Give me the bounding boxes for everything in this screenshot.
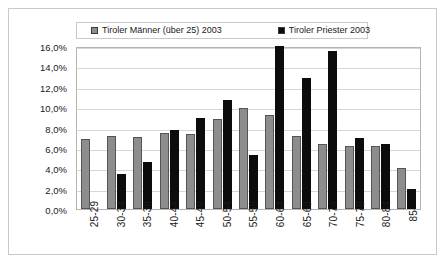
x-axis-slot: 45-49 <box>182 212 209 265</box>
legend-label-tiroler-priester: Tiroler Priester 2003 <box>289 26 370 35</box>
bar-80-84-series2 <box>381 144 390 209</box>
bar-35-39-series1 <box>133 137 142 209</box>
bar-group <box>341 48 367 209</box>
bar-group <box>367 48 393 209</box>
y-axis-tick-label: 4,0% <box>45 164 67 175</box>
x-axis-slot: 70-74 <box>315 212 342 265</box>
bar-25-29-series1 <box>81 139 90 209</box>
black-square-icon <box>278 27 285 34</box>
gray-square-icon <box>91 27 98 34</box>
bar-50-54-series1 <box>213 119 222 209</box>
bar-group <box>103 48 129 209</box>
x-axis-tick-label: 60-64 <box>275 201 286 228</box>
x-axis-tick-label: 45-49 <box>195 201 206 228</box>
bar-45-49-series1 <box>186 134 195 209</box>
chart-legend: Tiroler Männer (über 25) 2003 Tiroler Pr… <box>76 22 368 39</box>
x-axis-tick-label: 40-44 <box>169 201 180 228</box>
bar-group <box>77 48 103 209</box>
bar-group <box>209 48 235 209</box>
bar-group <box>288 48 314 209</box>
legend-label-tiroler-maenner: Tiroler Männer (über 25) 2003 <box>102 26 222 35</box>
bar-60-64-series1 <box>265 115 274 209</box>
bar-75-79-series2 <box>355 138 364 209</box>
y-axis-tick-label: 10,0% <box>40 103 67 114</box>
x-axis-tick-label: 35-39 <box>142 201 153 228</box>
y-axis-tick-label: 2,0% <box>45 184 67 195</box>
bar-40-44-series1 <box>160 133 169 209</box>
bar-80-84-series1 <box>371 146 380 209</box>
bar-30-34-series1 <box>107 136 116 209</box>
bar-group <box>262 48 288 209</box>
x-axis-tick-label: 70-74 <box>328 201 339 228</box>
bar-40-44-series2 <box>170 130 179 209</box>
x-axis: 25-2930-3435-3940-4445-4950-5455-5960-64… <box>76 212 421 265</box>
bar-group <box>394 48 420 209</box>
bar-group <box>235 48 261 209</box>
bar-65-69-series2 <box>302 78 311 209</box>
x-axis-tick-label: 55-59 <box>248 201 259 228</box>
legend-entry-tiroler-priester: Tiroler Priester 2003 <box>278 26 370 35</box>
y-axis-tick-label: 14,0% <box>40 62 67 73</box>
x-axis-slot: 50-54 <box>209 212 236 265</box>
x-axis-slot: 80-84 <box>368 212 395 265</box>
bar-70-74-series2 <box>328 51 337 209</box>
bar-70-74-series1 <box>318 144 327 209</box>
bar-group <box>130 48 156 209</box>
y-axis-tick-label: 0,0% <box>45 205 67 216</box>
x-axis-tick-label: 80-84 <box>381 201 392 228</box>
x-axis-tick-label: 75-79 <box>355 201 366 228</box>
bar-85--series1 <box>397 168 406 209</box>
plot-area <box>76 47 421 210</box>
x-axis-tick-label: 65-69 <box>302 201 313 228</box>
bar-45-49-series2 <box>196 118 205 209</box>
x-axis-tick-label: 25-29 <box>89 201 100 228</box>
chart-frame: Tiroler Männer (über 25) 2003 Tiroler Pr… <box>8 8 437 255</box>
x-axis-slot: 40-44 <box>156 212 183 265</box>
bar-60-64-series2 <box>275 46 284 209</box>
bar-groups <box>77 48 420 209</box>
y-axis: 16,0%14,0%12,0%10,0%8,0%6,0%4,0%2,0%0,0% <box>9 47 72 210</box>
x-axis-tick-label: 85- <box>408 206 419 221</box>
x-axis-slot: 30-34 <box>103 212 130 265</box>
x-axis-slot: 60-64 <box>262 212 289 265</box>
bar-50-54-series2 <box>223 100 232 209</box>
bar-group <box>183 48 209 209</box>
bar-group <box>156 48 182 209</box>
y-axis-tick-label: 8,0% <box>45 123 67 134</box>
y-axis-tick-label: 12,0% <box>40 82 67 93</box>
x-axis-tick-label: 30-34 <box>116 201 127 228</box>
bar-65-69-series1 <box>292 136 301 209</box>
x-axis-slot: 75-79 <box>341 212 368 265</box>
x-axis-slot: 55-59 <box>235 212 262 265</box>
y-axis-tick-label: 6,0% <box>45 143 67 154</box>
x-axis-slot: 85- <box>394 212 421 265</box>
bar-75-79-series1 <box>345 146 354 209</box>
bar-group <box>315 48 341 209</box>
y-axis-tick-label: 16,0% <box>40 42 67 53</box>
x-axis-slot: 25-29 <box>76 212 103 265</box>
x-axis-slot: 35-39 <box>129 212 156 265</box>
x-axis-slot: 65-69 <box>288 212 315 265</box>
x-axis-tick-label: 50-54 <box>222 201 233 228</box>
legend-entry-tiroler-maenner: Tiroler Männer (über 25) 2003 <box>91 26 222 35</box>
bar-55-59-series1 <box>239 108 248 209</box>
